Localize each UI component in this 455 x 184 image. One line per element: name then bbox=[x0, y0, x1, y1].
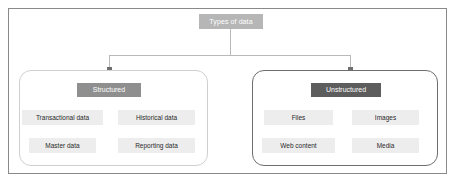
diagram-canvas: Types of data Structured Unstructured Tr… bbox=[0, 0, 455, 184]
leaf-media[interactable]: Media bbox=[352, 138, 419, 153]
leaf-files[interactable]: Files bbox=[264, 110, 333, 125]
group-header-unstructured[interactable]: Unstructured bbox=[311, 83, 381, 97]
leaf-transactional-data[interactable]: Transactional data bbox=[22, 110, 103, 125]
connector-horizontal-bus bbox=[109, 55, 351, 56]
leaf-web-content[interactable]: Web content bbox=[262, 138, 335, 153]
node-types-of-data[interactable]: Types of data bbox=[199, 14, 263, 29]
connector-root-vertical bbox=[230, 29, 231, 55]
leaf-master-data[interactable]: Master data bbox=[29, 138, 96, 153]
leaf-reporting-data[interactable]: Reporting data bbox=[118, 138, 195, 153]
leaf-historical-data[interactable]: Historical data bbox=[118, 110, 195, 125]
group-header-structured[interactable]: Structured bbox=[77, 83, 141, 97]
leaf-images[interactable]: Images bbox=[352, 110, 419, 125]
